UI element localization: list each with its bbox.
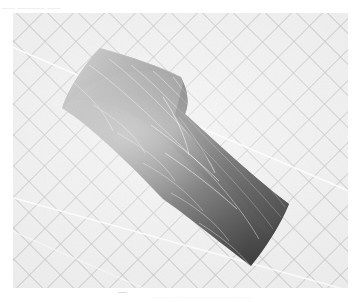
surface-body [53,48,291,275]
figure-page: ___ ______ ___ [0,0,361,302]
figure-plate [13,13,348,288]
scan-artifact-text-top: ___ ______ ___ [2,0,122,9]
surface-render [13,13,348,288]
figure-caption: ____ __ ____________ ___ [112,289,292,299]
